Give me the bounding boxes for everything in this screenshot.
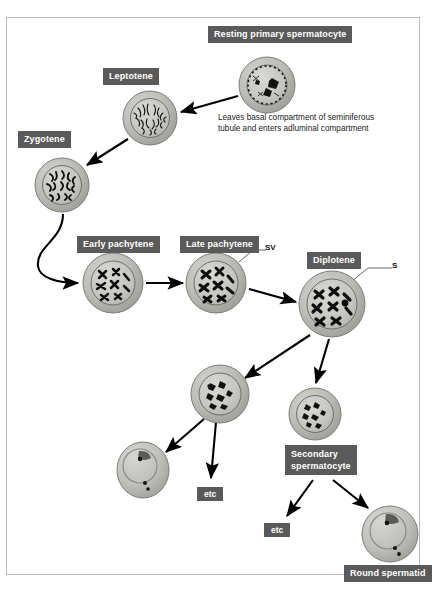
leader-line-s bbox=[352, 268, 392, 281]
arrow-diplotene-to-secondary bbox=[316, 339, 329, 383]
label-early-pachytene: Early pachytene bbox=[77, 236, 160, 253]
label-round-spermatid: Round spermatid bbox=[344, 565, 432, 582]
label-secondary-line-2: spermatocyte bbox=[291, 461, 351, 471]
label-zygotene: Zygotene bbox=[18, 131, 71, 148]
label-etc-left: etc bbox=[197, 487, 223, 501]
note-basal-compartment: Leaves basal compartment of seminiferous… bbox=[218, 112, 378, 135]
cell-resting-primary-spermatocyte bbox=[239, 57, 295, 113]
arrow-late-pachytene-to-diplotene bbox=[249, 289, 296, 302]
cell-leptotene bbox=[123, 91, 177, 145]
arrow-daughter-to-spermatid-left bbox=[166, 419, 204, 452]
cell-diplotene bbox=[299, 271, 365, 337]
cell-early-pachytene bbox=[83, 253, 143, 313]
annotation-sv: SV bbox=[265, 243, 276, 252]
arrow-leptotene-to-zygotene bbox=[87, 139, 128, 165]
label-diplotene: Diplotene bbox=[307, 252, 361, 269]
cell-late-pachytene bbox=[186, 253, 246, 313]
arrow-secondary-to-etc-right bbox=[287, 480, 313, 516]
annotation-s: S bbox=[392, 261, 397, 270]
label-resting-primary-spermatocyte: Resting primary spermatocyte bbox=[208, 26, 352, 43]
cell-zygotene bbox=[35, 158, 89, 212]
label-late-pachytene: Late pachytene bbox=[180, 236, 259, 253]
arrow-zygotene-to-early-pachytene bbox=[38, 214, 78, 283]
label-secondary-spermatocyte: Secondaryspermatocyte bbox=[285, 445, 357, 475]
cell-secondary-spermatocyte bbox=[289, 388, 341, 440]
diagram-canvas bbox=[0, 0, 436, 595]
label-leptotene: Leptotene bbox=[103, 68, 159, 85]
label-etc-right: etc bbox=[264, 523, 290, 537]
arrow-resting-to-leptotene bbox=[181, 96, 238, 112]
cell-spermatid-left bbox=[117, 442, 169, 498]
cell-spermatid-right bbox=[362, 506, 418, 562]
arrow-secondary-to-spermatid-right bbox=[333, 480, 368, 508]
arrow-diplotene-to-daughter-left bbox=[245, 335, 310, 378]
cell-daughter-left bbox=[191, 365, 249, 423]
label-secondary-line-1: Secondary bbox=[291, 449, 338, 459]
spermatogenesis-diagram: Resting primary spermatocyte Leptotene Z… bbox=[0, 0, 436, 595]
arrow-daughter-to-etc-left bbox=[211, 422, 216, 478]
